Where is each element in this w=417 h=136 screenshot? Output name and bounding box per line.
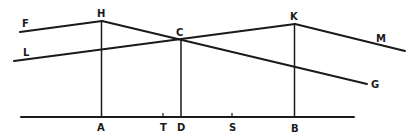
label-M: M [376,33,386,44]
label-H: H [97,8,105,19]
line-LK [14,24,295,61]
label-A: A [97,122,105,133]
line-HG [102,21,367,84]
label-K: K [290,11,299,22]
label-G: G [371,79,379,90]
line-KM [295,24,405,51]
geometric-diagram: F H L C K M G A T D S B [0,0,417,136]
label-L: L [23,47,30,58]
label-D: D [177,122,185,133]
label-T: T [160,122,167,133]
label-C: C [176,27,183,38]
line-FH [20,21,102,32]
label-B: B [291,123,299,134]
label-S: S [229,122,236,133]
label-F: F [22,18,29,29]
